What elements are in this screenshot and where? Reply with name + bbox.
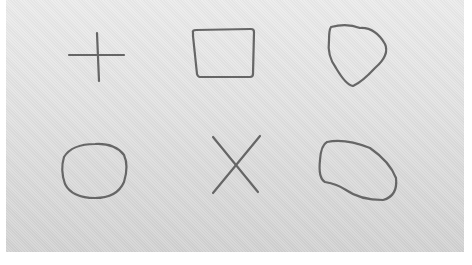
- circle-shape: [62, 144, 126, 198]
- shapes-canvas: [0, 0, 472, 265]
- rectangle-shape: [193, 29, 254, 77]
- plus-shape: [69, 33, 124, 81]
- x-shape: [213, 136, 260, 193]
- heart-blob-shape: [329, 25, 387, 86]
- irregular-blob-shape: [320, 141, 397, 200]
